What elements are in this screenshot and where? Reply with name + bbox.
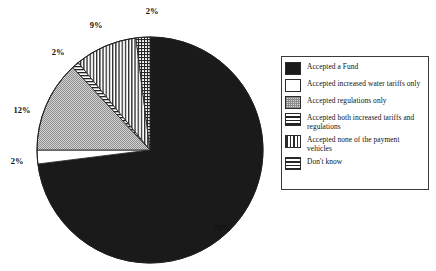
legend-item-dont-know: Don't know <box>285 156 424 170</box>
legend-item-water-tariffs-only: Accepted increased water tariffs only <box>285 78 424 92</box>
legend-label-dont-know: Don't know <box>307 156 342 166</box>
legend-item-accepted-a-fund: Accepted a Fund <box>285 61 424 75</box>
pie-label-accepted-a-fund: 73% <box>214 223 231 233</box>
legend-swatch-horizontal-lines-icon <box>285 113 301 126</box>
legend-item-regulations-only: Accepted regulations only <box>285 95 424 109</box>
legend-label-accepted-a-fund: Accepted a Fund <box>307 61 358 71</box>
legend-swatch-solid-black-icon <box>285 62 301 75</box>
chart-legend: Accepted a Fund Accepted increased water… <box>281 56 429 190</box>
pie-label-both-tariffs-and-regulations: 2% <box>52 47 65 57</box>
pie-label-water-tariffs-only: 2% <box>11 156 24 166</box>
pie-chart-svg: 2% 9% 2% 12% 2% 73% <box>0 0 280 271</box>
legend-item-both-tariffs-and-regulations: Accepted both increased tariffs and regu… <box>285 112 424 131</box>
legend-label-none-of-payment-vehicles: Accepted none of the payment vehicles <box>307 134 424 153</box>
legend-swatch-cross-hatch-icon <box>285 157 301 170</box>
legend-swatch-stipple-gray-icon <box>285 96 301 109</box>
pie-chart-area: 2% 9% 2% 12% 2% 73% <box>0 0 280 271</box>
legend-label-both-tariffs-and-regulations: Accepted both increased tariffs and regu… <box>307 112 424 131</box>
legend-label-regulations-only: Accepted regulations only <box>307 95 387 105</box>
pie-chart-figure: 2% 9% 2% 12% 2% 73% Accepted a Fund Acce… <box>0 0 436 271</box>
legend-swatch-vertical-lines-icon <box>285 135 301 148</box>
legend-label-water-tariffs-only: Accepted increased water tariffs only <box>307 78 420 88</box>
pie-label-none-of-payment-vehicles: 9% <box>90 20 103 30</box>
legend-swatch-white-icon <box>285 79 301 92</box>
pie-label-dont-know: 2% <box>146 6 159 16</box>
pie-label-regulations-only: 12% <box>14 105 31 115</box>
legend-item-none-of-payment-vehicles: Accepted none of the payment vehicles <box>285 134 424 153</box>
